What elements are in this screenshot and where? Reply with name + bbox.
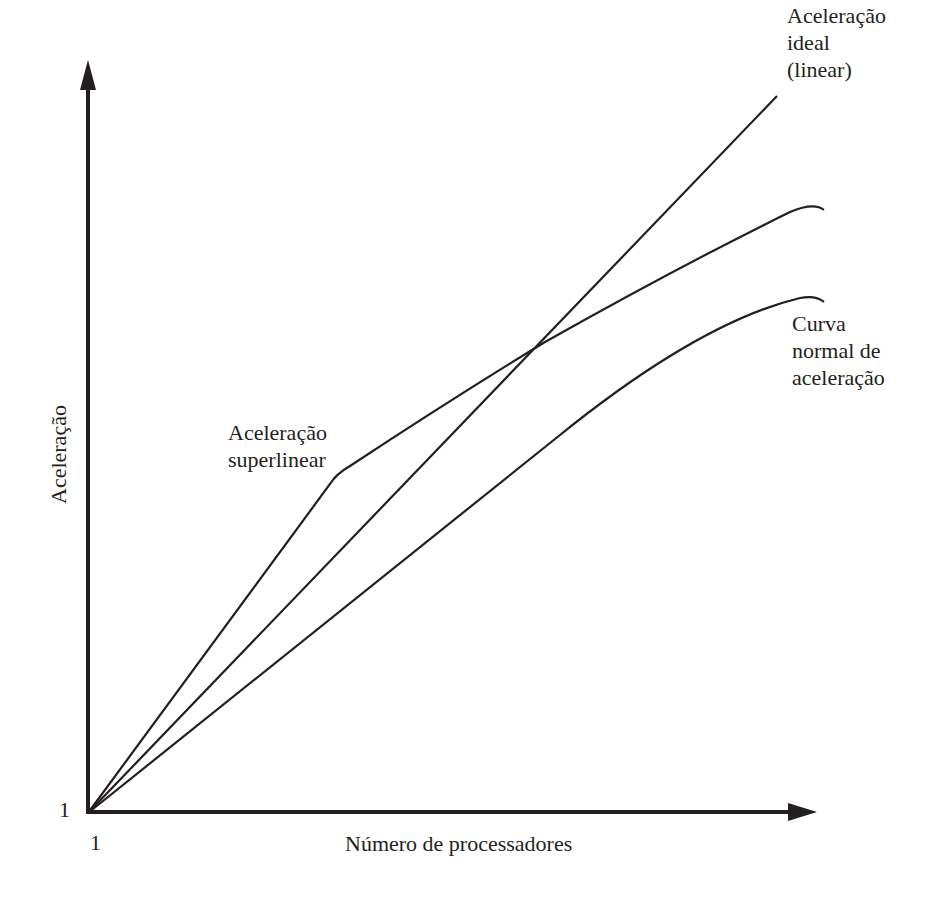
normal-label-line-1: Curva [792, 310, 885, 337]
x-axis-label: Número de processadores [345, 830, 572, 857]
normal-speedup-curve [88, 297, 824, 813]
speedup-diagram [0, 0, 944, 901]
x-origin-tick: 1 [90, 829, 101, 856]
y-axis-label: Aceleração [46, 405, 72, 504]
ideal-label: Aceleração ideal (linear) [787, 2, 886, 83]
y-axis-arrowhead-icon [80, 60, 96, 90]
ideal-speedup-line [88, 96, 777, 813]
superlinear-label-line-2: superlinear [228, 446, 327, 473]
x-axis-arrowhead-icon [788, 803, 817, 821]
normal-label: Curva normal de aceleração [792, 310, 885, 391]
ideal-label-line-3: (linear) [787, 56, 886, 83]
y-origin-tick: 1 [59, 796, 70, 823]
ideal-label-line-2: ideal [787, 29, 886, 56]
superlinear-label: Aceleração superlinear [228, 419, 327, 473]
superlinear-label-line-1: Aceleração [228, 419, 327, 446]
normal-label-line-3: aceleração [792, 364, 885, 391]
normal-label-line-2: normal de [792, 337, 885, 364]
ideal-label-line-1: Aceleração [787, 2, 886, 29]
superlinear-speedup-curve [88, 206, 824, 813]
